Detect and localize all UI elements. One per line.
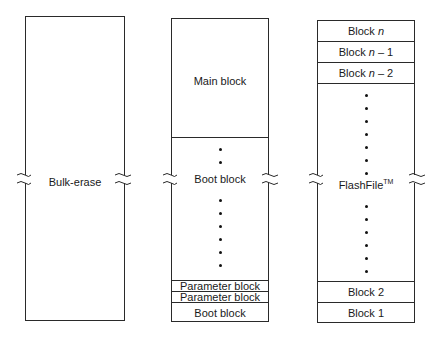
main-block-label: Main block [172,75,268,87]
ellipsis-dot [219,161,222,164]
ellipsis-dot [365,120,368,123]
ellipsis-dot [365,94,368,97]
ellipsis-dot [365,159,368,162]
ellipsis-dot [219,264,222,267]
flashfile-region: FlashFileTM [318,83,414,281]
ellipsis-dot [365,205,368,208]
boot-block-middle-label: Boot block [172,173,268,185]
boot-block-region: Boot block [172,137,268,280]
block-1: Block 1 [318,302,414,323]
parameter-block-1: Parameter block [172,280,268,291]
bulk-erase-column: Bulk-erase [25,16,125,321]
flashfile-label: FlashFileTM [318,178,414,191]
boot-block-bottom: Boot block [172,302,268,322]
boot-block-column: Main block Boot block Parameter block Pa… [171,18,269,322]
block-n: Block n [318,20,414,41]
ellipsis-dot [365,146,368,149]
parameter-block-2: Parameter block [172,291,268,302]
block-n-minus-2: Block n – 2 [318,62,414,83]
ellipsis-dot [219,148,222,151]
ellipsis-dot [219,251,222,254]
ellipsis-dot [219,238,222,241]
ellipsis-dot [219,225,222,228]
ellipsis-dot [219,212,222,215]
ellipsis-dot [365,244,368,247]
ellipsis-dot [219,199,222,202]
bulk-erase-label: Bulk-erase [26,176,124,188]
ellipsis-dot [365,257,368,260]
flashfile-column: Block n Block n – 1 Block n – 2 FlashFil… [317,20,415,323]
ellipsis-dot [365,270,368,273]
ellipsis-dot [365,218,368,221]
ellipsis-dot [365,172,368,175]
block-2: Block 2 [318,281,414,302]
ellipsis-dot [365,107,368,110]
ellipsis-dot [365,133,368,136]
ellipsis-dot [365,231,368,234]
block-n-minus-1: Block n – 1 [318,41,414,62]
